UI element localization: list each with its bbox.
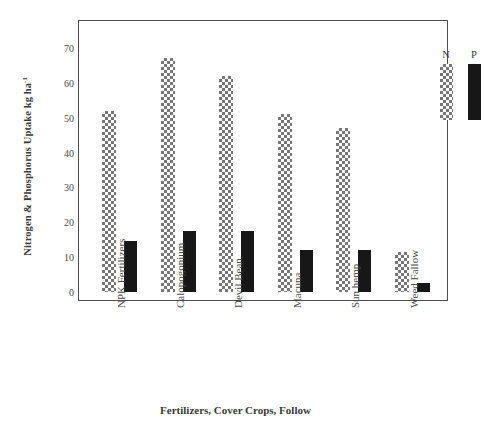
legend-entry-n: N — [437, 49, 455, 120]
plot-inner — [79, 21, 447, 300]
y-axis-title-superscript: -1 — [21, 77, 29, 83]
checkered-swatch — [440, 64, 453, 120]
y-axis-tick-label: 30 — [52, 183, 74, 193]
y-axis-tick-label: 20 — [52, 218, 74, 228]
y-axis-tick-labels: 010203040506070 — [50, 0, 74, 429]
x-axis-tick-label-npk-fertilizers: NPK Fertilizers — [115, 208, 127, 308]
bar-n-npk-fertilizers — [102, 111, 116, 292]
y-axis-tick-label: 0 — [52, 288, 74, 298]
x-axis-tick-label-macuna: Macuna — [291, 208, 303, 308]
plot-area: NP — [78, 20, 448, 301]
legend-entry-p: P — [465, 49, 483, 120]
y-axis-tick-label: 50 — [52, 114, 74, 124]
solid-black-swatch — [468, 64, 481, 120]
y-axis-tick-label: 60 — [52, 79, 74, 89]
bar-n-macuna — [278, 114, 292, 292]
y-axis-tick-label: 40 — [52, 149, 74, 159]
y-axis-title-text: Nitrogen & Phosphorus Uptake kg ha — [22, 83, 33, 256]
x-axis-tick-label-weed-fallow: Weed Fallow — [408, 208, 420, 308]
y-axis-tick-label: 70 — [52, 44, 74, 54]
legend-label-p: P — [465, 49, 483, 61]
chart-legend: NP — [437, 49, 485, 149]
x-axis-tick-label-calopogonium: Calopogonium — [174, 208, 186, 308]
bar-n-weed-fallow — [395, 252, 409, 292]
bar-n-calopogonium — [161, 58, 175, 292]
y-axis-title: Nitrogen & Phosphorus Uptake kg ha-1 — [21, 41, 34, 291]
x-axis-tick-label-devil-bean: Devil Bean — [232, 208, 244, 308]
x-axis-tick-label-sun-hemp: Sun hemp — [349, 208, 361, 308]
x-axis-title: Fertilizers, Cover Crops, Follow — [0, 404, 471, 416]
y-axis-tick-label: 10 — [52, 253, 74, 263]
legend-label-n: N — [437, 49, 455, 61]
